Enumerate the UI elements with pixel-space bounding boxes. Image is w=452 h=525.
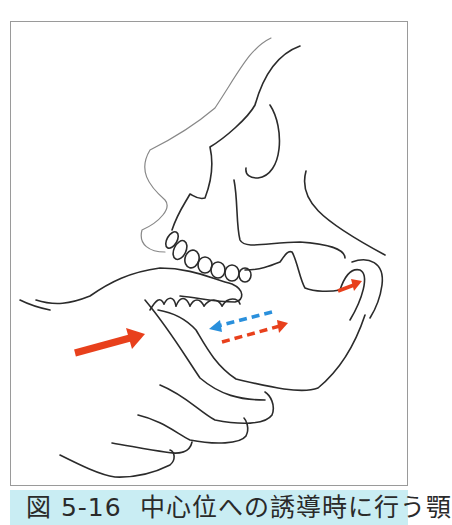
orbit-line bbox=[246, 105, 280, 178]
condyle-line bbox=[340, 270, 365, 320]
hand-palm bbox=[145, 300, 265, 400]
lower-teeth bbox=[150, 298, 240, 310]
cheek-line bbox=[304, 171, 385, 255]
finger-1 bbox=[160, 385, 273, 423]
figure-number: 図 5-16 bbox=[26, 493, 122, 522]
hand-bottom bbox=[60, 450, 174, 477]
wrist-line bbox=[20, 300, 50, 310]
figure-caption: 図 5-16中心位への誘導時に行う顎 bbox=[26, 492, 452, 523]
upper-teeth bbox=[163, 230, 251, 282]
finger-3 bbox=[112, 442, 192, 453]
face-profile-line bbox=[141, 38, 271, 252]
figure-caption-band: 図 5-16中心位への誘導時に行う顎 bbox=[10, 490, 408, 525]
large-push-arrow-icon bbox=[75, 328, 145, 353]
maxilla-lower bbox=[245, 252, 340, 292]
mandible-outline bbox=[158, 310, 365, 390]
figure-caption-text: 中心位への誘導時に行う顎 bbox=[140, 493, 452, 522]
finger-2 bbox=[138, 415, 248, 443]
